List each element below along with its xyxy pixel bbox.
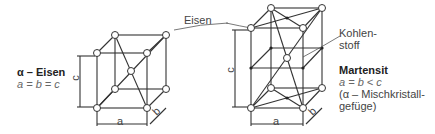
dim-a-right: a	[273, 115, 279, 127]
dim-c-left: c	[69, 75, 81, 81]
martensit-title: Martensit	[339, 64, 388, 76]
martensit-note-2: gefüge)	[339, 100, 376, 112]
martensit-relation: a = b < c	[339, 76, 382, 88]
dim-a-left: a	[117, 115, 123, 127]
label-kohlenstoff-2: stoff	[339, 39, 360, 51]
label-eisen: Eisen	[184, 14, 212, 26]
alpha-eisen-title: α – Eisen	[17, 66, 65, 78]
dim-c-right: c	[224, 67, 236, 73]
label-kohlenstoff-1: Kohlen-	[339, 27, 377, 39]
alpha-eisen-relation: a = b = c	[17, 78, 60, 90]
martensit-note-1: (α – Mischkristall-	[339, 88, 425, 100]
